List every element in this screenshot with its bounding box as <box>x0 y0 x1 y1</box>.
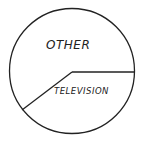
pie-chart: OTHER TELEVISION <box>0 0 143 142</box>
pie-outline <box>10 9 135 134</box>
slice-label-other: OTHER <box>46 38 90 52</box>
pie-chart-graphic <box>0 0 143 142</box>
slice-label-television: TELEVISION <box>54 86 109 96</box>
